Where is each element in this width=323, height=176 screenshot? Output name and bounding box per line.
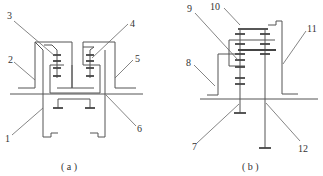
- part-label-2: 2: [8, 55, 13, 65]
- part-label-3: 3: [7, 11, 12, 21]
- part-label-5: 5: [135, 54, 140, 64]
- part-label-12: 12: [298, 144, 308, 154]
- part-label-7: 7: [192, 142, 197, 152]
- caption-a: ( a ): [61, 162, 77, 172]
- part-label-1: 1: [5, 134, 10, 144]
- leader-lines: [0, 0, 323, 176]
- part-label-10: 10: [210, 2, 220, 12]
- caption-b: ( b ): [242, 162, 259, 172]
- part-label-6: 6: [137, 124, 142, 134]
- part-label-9: 9: [187, 4, 192, 14]
- part-label-8: 8: [186, 58, 191, 68]
- gear-train-figure: 3 2 4 5 1 6 9 10 11 8 7 12 ( a ) ( b ): [0, 0, 323, 176]
- part-label-4: 4: [130, 19, 135, 29]
- part-label-11: 11: [307, 24, 317, 34]
